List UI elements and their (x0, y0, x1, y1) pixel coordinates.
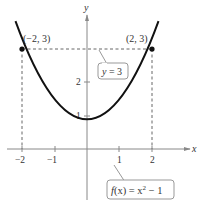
y-tick-label: 1 (76, 111, 81, 121)
point-2-3 (149, 46, 154, 51)
point-label-left: (−2, 3) (23, 33, 50, 45)
svg-text:y = 3: y = 3 (101, 66, 122, 77)
x-tick-label: −2 (15, 155, 25, 165)
y-axis-label: y (83, 2, 89, 13)
svg-text:f(x) = x2 − 1: f(x) = x2 − 1 (111, 184, 163, 197)
x-tick-label: 1 (117, 155, 122, 165)
callout-func-tail: − 1 (146, 185, 162, 196)
x-tick-label: −1 (47, 155, 57, 165)
x-axis-label: x (191, 143, 197, 154)
x-tick-label: 2 (150, 155, 155, 165)
y-tick-label: 2 (76, 77, 81, 87)
point-neg2-3 (19, 46, 24, 51)
callout-y-eq: = 3 (106, 66, 122, 77)
callout-line-y3: y = 3 (98, 50, 128, 79)
point-label-right: (2, 3) (126, 33, 148, 45)
function-graph: y x −2 −1 1 2 1 2 (−2, 3) (2, 3) y = 3 f… (0, 0, 200, 205)
callout-function: f(x) = x2 − 1 (107, 165, 174, 199)
callout-func-body: (x) = x (114, 185, 143, 197)
